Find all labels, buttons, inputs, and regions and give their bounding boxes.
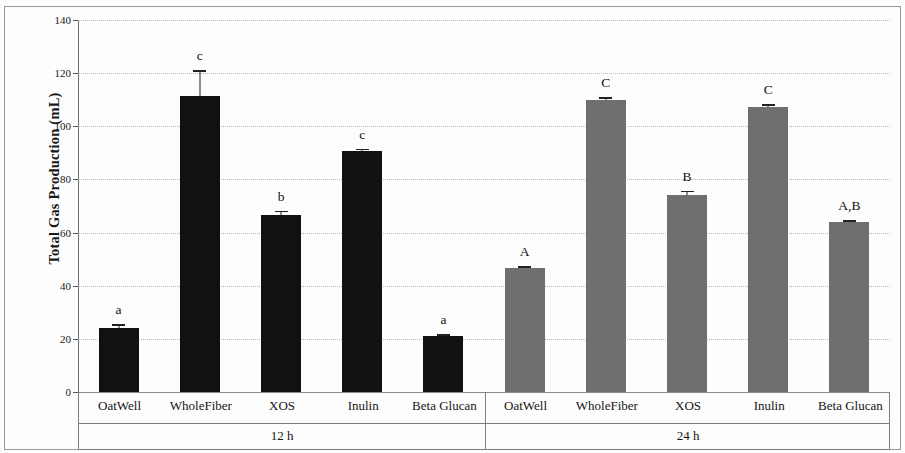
bar[interactable]	[180, 96, 220, 392]
error-bar-cap	[599, 97, 612, 99]
bar[interactable]	[505, 268, 545, 392]
error-bar-cap	[518, 266, 531, 268]
error-bar	[524, 266, 525, 268]
significance-letter: c	[359, 127, 365, 143]
bar[interactable]	[342, 151, 382, 392]
error-bar-cap	[843, 220, 856, 222]
significance-letter: b	[278, 189, 285, 205]
error-bar	[362, 149, 363, 151]
category-label-wholefiber: WholeFiber	[170, 398, 232, 414]
bar-group: a	[423, 20, 463, 392]
y-tick-label: 0	[66, 386, 72, 398]
y-tick-label: 40	[60, 280, 71, 292]
category-label-inulin: Inulin	[348, 398, 379, 414]
error-bar-cap	[193, 70, 206, 72]
error-bar	[849, 220, 850, 222]
bar-group: a	[99, 20, 139, 392]
y-tick-label: 140	[55, 14, 72, 26]
error-bar-cap	[275, 211, 288, 213]
bar-group: C	[586, 20, 626, 392]
plot-area: 020406080100120140 acbcaACBCA,B	[78, 20, 890, 392]
category-label-xos: XOS	[269, 398, 295, 414]
y-tick-label: 120	[55, 67, 72, 79]
group-label-12h: 12 h	[271, 428, 294, 444]
y-tick-label: 20	[60, 333, 71, 345]
bar[interactable]	[748, 107, 788, 392]
error-bar	[687, 191, 688, 195]
error-bar-cap	[437, 334, 450, 336]
significance-letter: A,B	[838, 198, 860, 214]
significance-letter: A	[520, 244, 530, 260]
category-label-inulin: Inulin	[754, 398, 785, 414]
category-label-wholefiber: WholeFiber	[576, 398, 638, 414]
error-bar	[199, 70, 200, 95]
significance-letter: c	[197, 48, 203, 64]
category-label-band: OatWellWholeFiberXOSInulinBeta GlucanOat…	[78, 392, 890, 424]
panel-separator	[485, 392, 486, 423]
bar-group: c	[342, 20, 382, 392]
category-label-beta-glucan: Beta Glucan	[412, 398, 477, 414]
bar[interactable]	[261, 215, 301, 392]
error-bar	[281, 211, 282, 215]
bar-group: C	[748, 20, 788, 392]
bar[interactable]	[423, 336, 463, 392]
bar-group: c	[180, 20, 220, 392]
category-label-oatwell: OatWell	[98, 398, 141, 414]
bar[interactable]	[586, 100, 626, 392]
error-bar	[443, 334, 444, 336]
significance-letter: a	[440, 312, 446, 328]
category-label-xos: XOS	[675, 398, 701, 414]
bars-layer: acbcaACBCA,B	[78, 20, 890, 392]
error-bar-cap	[681, 191, 694, 193]
error-bar	[605, 97, 606, 100]
bar-group: A,B	[829, 20, 869, 392]
category-label-beta-glucan: Beta Glucan	[818, 398, 883, 414]
bar[interactable]	[829, 222, 869, 392]
error-bar-cap	[356, 149, 369, 151]
bar-group: B	[667, 20, 707, 392]
panel-separator	[485, 424, 486, 449]
bar[interactable]	[667, 195, 707, 392]
group-label-24h: 24 h	[677, 428, 700, 444]
significance-letter: C	[601, 75, 610, 91]
error-bar-cap	[762, 104, 775, 106]
significance-letter: C	[764, 82, 773, 98]
bar[interactable]	[99, 328, 139, 392]
y-tick-label: 60	[60, 227, 71, 239]
significance-letter: B	[682, 169, 691, 185]
error-bar	[118, 324, 119, 328]
significance-letter: a	[116, 302, 122, 318]
group-label-band: 12 h24 h	[78, 424, 890, 450]
error-bar-cap	[112, 324, 125, 326]
y-tick-label: 100	[55, 120, 72, 132]
bar-group: A	[505, 20, 545, 392]
figure-container: Total Gas Production (mL) 02040608010012…	[0, 0, 905, 453]
bar-group: b	[261, 20, 301, 392]
category-label-oatwell: OatWell	[504, 398, 547, 414]
error-bar	[768, 104, 769, 107]
y-tick-label: 80	[60, 173, 71, 185]
